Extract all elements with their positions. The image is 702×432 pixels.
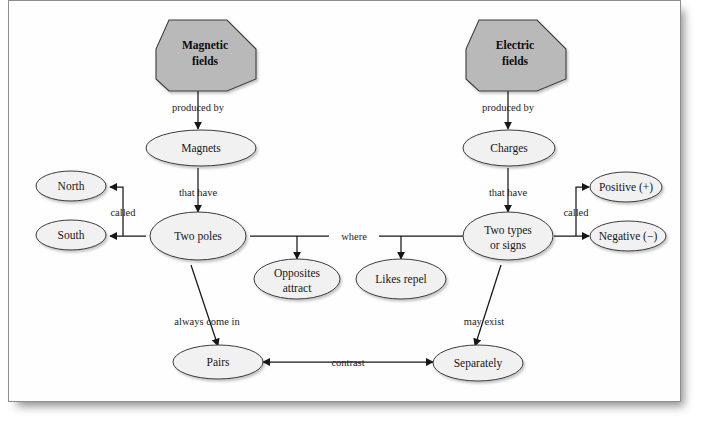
node-magnets[interactable]: Magnets bbox=[146, 130, 256, 166]
opposites-attract-label-line1: Opposites bbox=[274, 267, 321, 280]
electric-fields-label-line2: fields bbox=[502, 55, 529, 67]
edge-label-contrast: contrast bbox=[331, 357, 364, 368]
edge-label-called-right: called bbox=[563, 207, 589, 218]
edge-label-that-have-left: that have bbox=[179, 187, 218, 198]
node-likes-repel[interactable]: Likes repel bbox=[356, 259, 446, 299]
node-two-types-or-signs[interactable]: Two types or signs bbox=[463, 212, 553, 260]
two-types-or-signs-label-line1: Two types bbox=[484, 224, 532, 237]
node-charges[interactable]: Charges bbox=[463, 130, 555, 166]
positive-label: Positive (+) bbox=[599, 181, 653, 194]
node-magnetic-fields[interactable]: Magnetic fields bbox=[156, 20, 256, 91]
electric-fields-label-line1: Electric bbox=[496, 39, 534, 51]
charges-label: Charges bbox=[490, 142, 528, 155]
edge-label-always-come-in: always come in bbox=[174, 316, 240, 327]
negative-label: Negative (−) bbox=[599, 230, 658, 243]
two-types-or-signs-ellipse-shape bbox=[463, 212, 553, 260]
likes-repel-label: Likes repel bbox=[375, 273, 426, 286]
node-south[interactable]: South bbox=[36, 220, 106, 250]
edge-two-poles-to-pairs bbox=[191, 265, 218, 346]
node-positive[interactable]: Positive (+) bbox=[590, 172, 662, 202]
edge-label-produced-by-left: produced by bbox=[172, 102, 225, 113]
pairs-label: Pairs bbox=[207, 356, 231, 368]
edge-label-that-have-right: that have bbox=[489, 187, 528, 198]
magnetic-fields-label-line2: fields bbox=[192, 55, 219, 67]
separately-label: Separately bbox=[454, 357, 503, 370]
concept-map-diagram: produced by produced by that have that h… bbox=[9, 1, 682, 403]
node-separately[interactable]: Separately bbox=[433, 345, 523, 381]
two-poles-label: Two poles bbox=[174, 230, 222, 243]
edge-label-may-exist: may exist bbox=[464, 316, 505, 327]
scanned-page-card: produced by produced by that have that h… bbox=[8, 0, 681, 402]
edge-label-called-left: called bbox=[110, 207, 136, 218]
magnets-label: Magnets bbox=[181, 142, 221, 155]
north-label: North bbox=[58, 180, 85, 192]
node-pairs[interactable]: Pairs bbox=[173, 345, 263, 379]
screenshot-root: produced by produced by that have that h… bbox=[0, 0, 702, 432]
opposites-attract-label-line2: attract bbox=[283, 282, 313, 294]
node-north[interactable]: North bbox=[36, 171, 106, 201]
south-label: South bbox=[58, 229, 85, 241]
node-negative[interactable]: Negative (−) bbox=[590, 221, 666, 251]
node-two-poles[interactable]: Two poles bbox=[150, 212, 246, 260]
node-electric-fields[interactable]: Electric fields bbox=[466, 20, 566, 91]
node-opposites-attract[interactable]: Opposites attract bbox=[254, 259, 340, 299]
edge-two-types-to-separately bbox=[475, 265, 501, 346]
edge-label-where: where bbox=[341, 231, 367, 242]
two-types-or-signs-label-line2: or signs bbox=[490, 239, 527, 252]
edge-label-produced-by-right: produced by bbox=[482, 102, 535, 113]
magnetic-fields-label-line1: Magnetic bbox=[182, 39, 228, 52]
